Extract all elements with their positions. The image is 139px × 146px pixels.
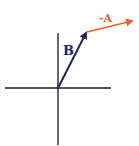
- vector-b-label: B: [63, 44, 74, 57]
- vector-b-arrow: [58, 33, 86, 88]
- vector-neg-a-label: -A: [99, 13, 112, 24]
- diagram-svg: [0, 0, 139, 146]
- vector-diagram: B -A: [0, 0, 139, 146]
